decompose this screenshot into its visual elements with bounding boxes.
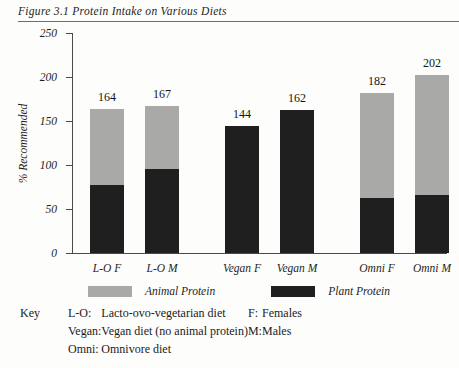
- bar-omni-f: 182Omni F: [360, 93, 394, 253]
- bar-value-label: 164: [98, 90, 116, 105]
- segment-plant-protein: [90, 185, 124, 253]
- y-axis-line: [72, 33, 73, 254]
- y-tick-label-250: 250: [40, 27, 57, 39]
- bar-vegan-m: 162Vegan M: [280, 110, 314, 253]
- figure-page: Figure 3.1 Protein Intake on Various Die…: [0, 0, 459, 368]
- segment-plant-protein: [415, 195, 449, 253]
- y-tick-label-150: 150: [40, 115, 57, 127]
- legend-swatch-plant-protein: [271, 286, 315, 297]
- x-axis-label: Omni M: [413, 262, 451, 274]
- legend-label-plant-protein: Plant Protein: [328, 285, 390, 297]
- x-axis-line: [72, 253, 447, 254]
- key-abbr-secondary: [248, 342, 262, 360]
- segment-plant-protein: [145, 169, 179, 253]
- segment-animal-protein: [145, 106, 179, 169]
- y-tick-100: 100: [66, 165, 72, 166]
- legend-item-plant-protein: Plant Protein: [271, 285, 390, 297]
- key-definition-secondary: Males: [262, 324, 302, 342]
- bar-omni-m: 202Omni M: [415, 75, 449, 253]
- bar-l-o-f: 164L-O F: [90, 109, 124, 253]
- key-definition: Lacto-ovo-vegetarian diet: [101, 306, 248, 324]
- y-tick-250: 250: [66, 33, 72, 34]
- y-tick-label-0: 0: [51, 247, 57, 259]
- key-row: Omni:Omnivore diet: [68, 342, 302, 360]
- bar-value-label: 167: [153, 87, 171, 102]
- key-definition: Omnivore diet: [101, 342, 248, 360]
- bar-vegan-f: 144Vegan F: [225, 126, 259, 253]
- legend-item-animal-protein: Animal Protein: [88, 285, 215, 297]
- x-axis-label: Vegan M: [277, 262, 318, 274]
- y-tick-label-100: 100: [40, 159, 57, 171]
- x-axis-label: L-O M: [147, 262, 178, 274]
- bar-value-label: 162: [288, 91, 306, 106]
- segment-animal-protein: [415, 75, 449, 195]
- key-title: Key: [20, 306, 40, 321]
- title-divider: [18, 21, 459, 22]
- bar-value-label: 182: [368, 74, 386, 89]
- key-abbr-secondary: M:: [248, 324, 262, 342]
- segment-plant-protein: [280, 110, 314, 253]
- key-definition: Vegan diet (no animal protein): [101, 324, 248, 342]
- key-abbr: Vegan:: [68, 324, 101, 342]
- y-axis-label: % Recommended: [16, 33, 30, 254]
- key-abbr: Omni:: [68, 342, 101, 360]
- segment-plant-protein: [225, 126, 259, 253]
- key-table: L-O:Lacto-ovo-vegetarian dietF:FemalesVe…: [68, 306, 302, 360]
- key-abbr-secondary: F:: [248, 306, 262, 324]
- legend-swatch-animal-protein: [88, 286, 132, 297]
- x-axis-label: Omni F: [359, 262, 394, 274]
- segment-animal-protein: [360, 93, 394, 199]
- bar-l-o-m: 167L-O M: [145, 106, 179, 253]
- key-definition-secondary: [262, 342, 302, 360]
- y-tick-200: 200: [66, 77, 72, 78]
- plot-area: 050100150200250 164L-O F167L-O M144Vegan…: [72, 33, 447, 254]
- bar-value-label: 144: [233, 107, 251, 122]
- key-row: L-O:Lacto-ovo-vegetarian dietF:Females: [68, 306, 302, 324]
- x-axis-label: Vegan F: [223, 262, 261, 274]
- bar-value-label: 202: [423, 56, 441, 71]
- chart-legend: Animal Protein Plant Protein: [88, 285, 390, 297]
- figure-title: Figure 3.1 Protein Intake on Various Die…: [18, 5, 227, 17]
- segment-animal-protein: [90, 109, 124, 186]
- y-tick-label-200: 200: [40, 71, 57, 83]
- key-definition-secondary: Females: [262, 306, 302, 324]
- key-abbr: L-O:: [68, 306, 101, 324]
- y-tick-50: 50: [66, 209, 72, 210]
- key-row: Vegan:Vegan diet (no animal protein)M:Ma…: [68, 324, 302, 342]
- y-tick-0: 0: [66, 253, 72, 254]
- y-tick-150: 150: [66, 121, 72, 122]
- x-axis-label: L-O F: [93, 262, 121, 274]
- y-tick-label-50: 50: [46, 203, 58, 215]
- legend-label-animal-protein: Animal Protein: [145, 285, 215, 297]
- segment-plant-protein: [360, 198, 394, 253]
